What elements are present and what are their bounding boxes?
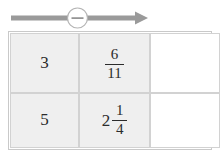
minus-icon <box>72 17 84 19</box>
cell-r1c1[interactable]: 2 1 4 <box>79 93 150 148</box>
cell-value-r1c1: 2 1 4 <box>102 103 128 138</box>
fraction-r0c1: 6 11 <box>105 47 123 82</box>
table-row: 5 2 1 4 <box>10 93 220 148</box>
mixed-whole-r1c1: 2 <box>102 112 111 129</box>
fraction-denominator-r1c1: 4 <box>114 121 126 138</box>
fraction-r1c1: 1 4 <box>112 103 127 138</box>
cell-whole-r0c0: 3 <box>40 54 49 71</box>
operator-arrow-strip: − <box>0 0 220 32</box>
worksheet-widget: − 3 6 11 <box>0 0 220 156</box>
cell-r1c2-answer-blank[interactable] <box>150 93 220 148</box>
cell-value-r0c1: 6 11 <box>105 47 123 82</box>
fraction-numerator-r0c1: 6 <box>109 47 121 64</box>
number-grid: 3 6 11 <box>8 31 212 150</box>
cell-value-r1c0: 5 <box>40 111 49 128</box>
arrow-right-icon <box>0 0 220 32</box>
table-row: 3 6 11 <box>10 33 220 93</box>
cell-whole-r1c0: 5 <box>40 111 49 128</box>
fraction-denominator-r0c1: 11 <box>105 65 123 82</box>
cell-r0c0[interactable]: 3 <box>10 33 79 93</box>
cell-r0c1[interactable]: 6 11 <box>79 33 150 93</box>
cell-r1c0[interactable]: 5 <box>10 93 79 148</box>
number-table: 3 6 11 <box>10 33 220 148</box>
fraction-numerator-r1c1: 1 <box>114 103 126 120</box>
cell-value-r0c0: 3 <box>40 54 49 71</box>
cell-r0c2-answer-blank[interactable] <box>150 33 220 93</box>
